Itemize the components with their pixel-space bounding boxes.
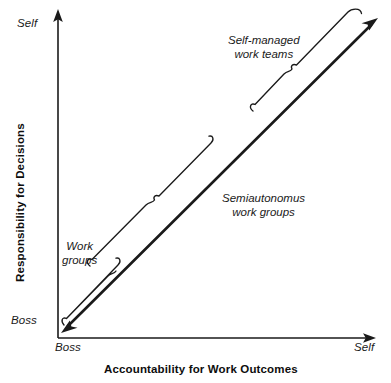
- callout-line-1: Semiautonomus: [222, 192, 305, 206]
- callout-semiautonomus-work-groups: Semiautonomus work groups: [222, 192, 305, 219]
- diagram-canvas: Self Boss Boss Self Accountability for W…: [0, 0, 391, 383]
- callout-line-2: groups: [62, 254, 97, 268]
- y-axis-high-label: Self: [17, 17, 37, 29]
- callout-work-groups: Work groups: [62, 240, 97, 267]
- callout-line-2: work groups: [222, 206, 305, 220]
- callout-line-2: work teams: [228, 48, 300, 62]
- x-axis: [58, 333, 376, 343]
- continuum-double-arrow: [61, 18, 378, 333]
- callout-self-managed-work-teams: Self-managed work teams: [228, 34, 300, 61]
- brace-work-groups: [62, 258, 120, 325]
- x-axis-high-label: Self: [354, 341, 374, 353]
- y-axis-low-label: Boss: [11, 314, 37, 326]
- x-axis-title: Accountability for Work Outcomes: [104, 363, 298, 375]
- callout-line-1: Work: [62, 240, 97, 254]
- x-axis-low-label: Boss: [55, 341, 81, 353]
- y-axis: [53, 9, 63, 338]
- callout-line-1: Self-managed: [228, 34, 300, 48]
- y-axis-title: Responsibility for Decisions: [14, 123, 26, 282]
- diagram-vector-layer: [0, 0, 391, 383]
